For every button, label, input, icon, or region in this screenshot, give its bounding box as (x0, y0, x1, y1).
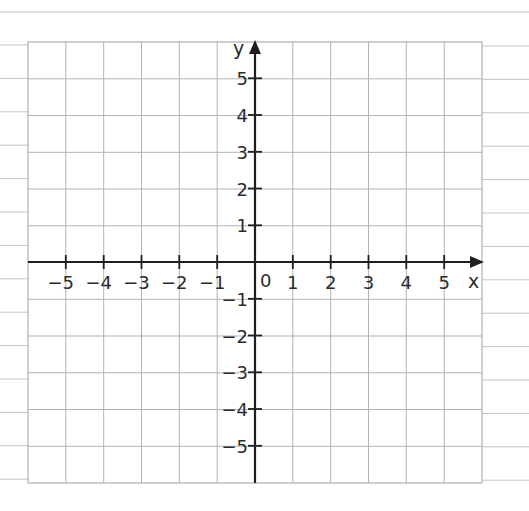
x-tick-label: 4 (401, 272, 412, 293)
x-tick-label: 3 (363, 272, 374, 293)
x-tick-label: −2 (161, 272, 188, 293)
y-tick-label: 1 (237, 215, 248, 236)
coordinate-grid-figure: −5−4−3−2−11234554321−1−2−3−4−5 x y 0 (0, 0, 529, 511)
grid-svg: −5−4−3−2−11234554321−1−2−3−4−5 x y 0 (0, 0, 529, 511)
x-tick-label: −3 (123, 272, 150, 293)
x-tick-label: 5 (438, 272, 449, 293)
x-tick-label: −5 (48, 272, 75, 293)
y-tick-label: 3 (237, 142, 248, 163)
x-tick-label: 2 (325, 272, 336, 293)
y-tick-label: 2 (237, 179, 248, 200)
y-tick-label: −5 (221, 436, 248, 457)
x-axis-label: x (468, 270, 479, 292)
y-axis-label: y (233, 37, 244, 59)
y-tick-label: 4 (237, 105, 248, 126)
origin-label: 0 (260, 270, 271, 291)
y-tick-label: 5 (237, 68, 248, 89)
y-tick-label: −2 (221, 326, 248, 347)
x-tick-label: 1 (287, 272, 298, 293)
y-tick-label: −4 (221, 399, 248, 420)
y-tick-label: −1 (221, 289, 248, 310)
y-tick-label: −3 (221, 362, 248, 383)
x-tick-label: −4 (85, 272, 112, 293)
